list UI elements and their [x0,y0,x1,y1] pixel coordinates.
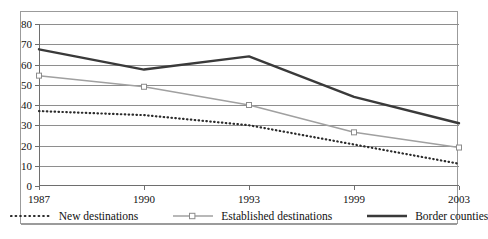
x-tick-label: 1993 [238,194,260,205]
x-tick-mark [249,186,250,190]
y-tick-label: 70 [21,39,32,50]
series-layer [39,24,459,186]
data-point-marker [457,145,462,150]
y-tick-label: 10 [21,160,32,171]
x-tick-label: 2003 [448,194,470,205]
y-tick-label: 20 [21,140,32,151]
legend-item-established-destinations[interactable]: Established destinations [172,210,332,222]
legend-item-border-counties[interactable]: Border counties [366,210,488,222]
dotted-line-swatch [10,211,52,221]
gray-line-marker-swatch [172,211,214,221]
series-line-new-destinations [39,111,459,164]
data-point-marker [247,103,252,108]
legend-label-new-destinations: New destinations [59,210,139,222]
x-tick-label: 1990 [133,194,155,205]
y-tick-label: 0 [27,181,33,192]
y-tick-label: 80 [21,19,32,30]
y-tick-label: 50 [21,79,32,90]
chart-figure: 01020304050607080 19871990199319992003 N… [20,11,458,224]
x-tick-mark [144,186,145,190]
legend-label-established-destinations: Established destinations [221,210,332,222]
series-line-established-destinations [39,76,459,148]
x-tick-label: 1987 [28,194,50,205]
plot-area: 01020304050607080 19871990199319992003 [39,24,459,186]
data-point-marker [142,84,147,89]
y-tick-label: 40 [21,100,32,111]
data-point-marker [352,130,357,135]
x-tick-mark [459,186,460,190]
black-thick-line-swatch [366,211,408,221]
legend-item-new-destinations[interactable]: New destinations [10,210,139,222]
legend-divider [21,224,457,225]
x-tick-mark [39,186,40,190]
x-tick-mark [354,186,355,190]
y-tick-label: 30 [21,120,32,131]
x-tick-label: 1999 [343,194,365,205]
chart-legend: New destinations Established destination… [39,208,459,224]
legend-label-border-counties: Border counties [415,210,488,222]
data-point-marker [37,73,42,78]
y-tick-label: 60 [21,59,32,70]
series-line-border-counties [39,49,459,123]
